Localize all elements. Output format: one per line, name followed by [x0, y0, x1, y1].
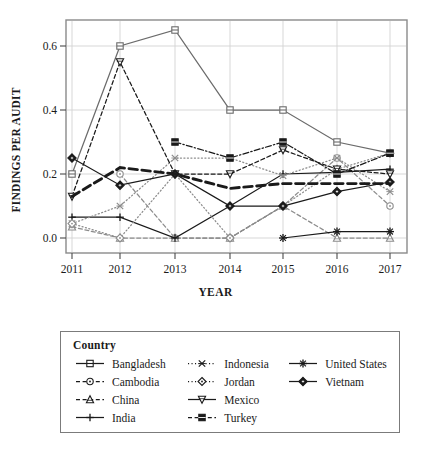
marker-open-diamond-dot — [229, 237, 231, 239]
legend-key-open-square-icon — [73, 356, 107, 371]
marker-diamond-inner-circle — [302, 380, 305, 383]
marker-diamond-inner-circle — [71, 157, 74, 160]
legend-key-open-triangle-up-icon — [73, 392, 107, 407]
marker-open-circle-dot — [389, 205, 391, 207]
legend-item-india[interactable]: India — [73, 409, 185, 426]
legend-item-label: Jordan — [219, 376, 255, 388]
legend-column-2: IndonesiaJordanMexicoTurkey — [185, 355, 286, 426]
y-axis-tick-label: 0.6 — [43, 40, 58, 52]
x-axis-tick-label: 2012 — [109, 263, 132, 275]
legend-item-jordan[interactable]: Jordan — [185, 373, 286, 390]
y-axis-tick-label: 0.2 — [43, 168, 58, 180]
y-axis-tick-label: 0.4 — [43, 104, 58, 116]
legend-title: Country — [73, 339, 389, 351]
legend-key-filled-square-icon — [185, 410, 219, 425]
x-axis-tick-label: 2011 — [61, 263, 84, 275]
legend-item-cambodia[interactable]: Cambodia — [73, 373, 185, 390]
legend-item-label: Indonesia — [219, 358, 269, 370]
marker-open-circle-dot — [119, 173, 121, 175]
y-axis-title-text: FINDINGS PER AUDIT — [9, 87, 21, 212]
legend-item-label: China — [107, 394, 139, 406]
marker-diamond-inner-circle — [336, 190, 339, 193]
legend-item-label: Turkey — [219, 412, 257, 424]
legend-item-label: Mexico — [219, 394, 259, 406]
legend-item-china[interactable]: China — [73, 391, 185, 408]
legend-key-asterisk-icon — [286, 356, 320, 371]
legend-item-label: Bangladesh — [107, 358, 166, 370]
legend-item-united-states[interactable]: United States — [286, 355, 389, 372]
legend-key-open-triangle-down-icon — [185, 392, 219, 407]
marker-diamond-inner-circle — [282, 205, 285, 208]
legend-key-open-circle-icon — [73, 374, 107, 389]
legend-key-plus-icon — [73, 410, 107, 425]
legend-column-1: BangladeshCambodiaChinaIndia — [73, 355, 185, 426]
legend-key-x-cross-icon — [185, 356, 219, 371]
marker-open-circle-dot — [89, 381, 91, 383]
legend-item-mexico[interactable]: Mexico — [185, 391, 286, 408]
legend-item-label: Vietnam — [320, 376, 364, 388]
x-axis-tick-label: 2017 — [379, 263, 402, 275]
legend-items-grid: BangladeshCambodiaChinaIndiaIndonesiaJor… — [73, 355, 389, 426]
x-axis-tick-label: 2015 — [272, 263, 295, 275]
legend-item-label: India — [107, 412, 136, 424]
legend-item-turkey[interactable]: Turkey — [185, 409, 286, 426]
legend-key-open-diamond-icon — [185, 374, 219, 389]
legend-item-label: Cambodia — [107, 376, 159, 388]
marker-open-diamond-dot — [201, 381, 203, 383]
legend-item-bangladesh[interactable]: Bangladesh — [73, 355, 185, 372]
marker-open-diamond-dot — [119, 237, 121, 239]
legend-item-indonesia[interactable]: Indonesia — [185, 355, 286, 372]
legend-item-label: United States — [320, 358, 387, 370]
legend-column-3: United StatesVietnam — [286, 355, 389, 426]
y-axis-tick-label: 0.0 — [43, 232, 58, 244]
line-chart-plot: 0.00.20.40.62011201220132014201520162017 — [0, 0, 431, 310]
x-axis-title-text: YEAR — [198, 286, 232, 298]
marker-diamond-inner-circle — [119, 184, 122, 187]
x-axis-tick-label: 2014 — [219, 263, 242, 275]
x-axis-title: YEAR — [0, 286, 431, 298]
y-axis-title: FINDINGS PER AUDIT — [6, 60, 24, 240]
legend-panel: Country BangladeshCambodiaChinaIndiaIndo… — [60, 331, 400, 433]
x-axis-tick-label: 2016 — [326, 263, 349, 275]
legend-item-vietnam[interactable]: Vietnam — [286, 373, 389, 390]
marker-diamond-inner-circle — [229, 205, 232, 208]
x-axis-tick-label: 2013 — [164, 263, 187, 275]
marker-open-diamond-dot — [71, 223, 73, 225]
legend-key-filled-diamond-circle-icon — [286, 374, 320, 389]
